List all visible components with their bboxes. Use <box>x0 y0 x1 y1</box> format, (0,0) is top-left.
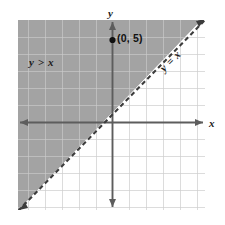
plotted-point-0-5 <box>109 37 115 43</box>
coordinate-plane-svg <box>0 0 225 225</box>
y-axis-label: y <box>108 8 113 19</box>
shaded-region-label: y > x <box>29 57 54 68</box>
x-axis-label: x <box>209 118 215 129</box>
inequality-graph-figure: y x (0, 5) y > x y = x <box>0 0 225 225</box>
point-coordinate-label: (0, 5) <box>117 33 143 44</box>
